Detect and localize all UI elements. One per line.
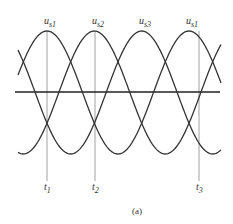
phase-label-s1-3: us1: [186, 15, 198, 29]
time-label-t3: t3: [196, 181, 203, 195]
phase-label-s3-2: us3: [139, 15, 151, 29]
three-phase-waveform-diagram: us1us2us3us1 t1t2t3 (a): [0, 0, 233, 224]
time-guide-lines: [47, 31, 199, 181]
phase-labels: us1us2us3us1: [44, 15, 198, 29]
time-label-t1: t1: [44, 181, 51, 195]
phase-label-s2-1: us2: [92, 15, 104, 29]
time-labels: t1t2t3: [44, 181, 203, 195]
time-label-t2: t2: [92, 181, 99, 195]
phase-label-s1-0: us1: [44, 15, 56, 29]
figure-caption: (a): [132, 206, 142, 216]
